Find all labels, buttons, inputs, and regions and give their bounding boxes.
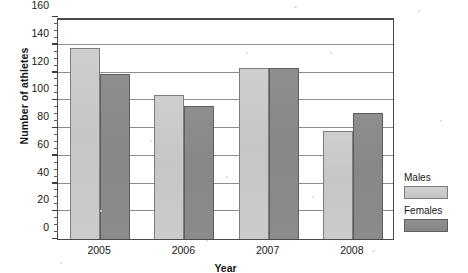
y-axis-tick	[52, 43, 58, 44]
y-axis-minor-tick	[54, 176, 58, 177]
scan-artifact	[372, 250, 375, 252]
y-axis-minor-tick	[54, 196, 58, 197]
y-axis-tick-label: 20	[37, 193, 49, 205]
y-axis-tick-label: 40	[37, 166, 49, 178]
bar-males-2006	[154, 95, 184, 239]
bar-males-2007	[239, 68, 269, 239]
scan-artifact	[206, 240, 208, 242]
x-axis-title: Year	[214, 262, 236, 273]
y-axis-minor-tick	[54, 78, 58, 79]
bar-males-2005	[70, 48, 100, 239]
y-axis-tick	[52, 99, 58, 100]
y-axis-tick	[52, 154, 58, 155]
y-axis-tick	[52, 238, 58, 239]
y-axis-tick-label: 60	[37, 138, 49, 150]
y-axis-minor-tick	[54, 141, 58, 142]
y-axis-tick	[52, 182, 58, 183]
y-axis-minor-tick	[54, 134, 58, 135]
x-axis-tick-label: 2008	[340, 244, 363, 256]
y-axis-minor-tick	[54, 85, 58, 86]
y-axis-minor-tick	[54, 51, 58, 52]
y-axis-tick	[52, 16, 58, 17]
bar-females-2007	[269, 68, 299, 239]
y-axis-minor-tick	[54, 23, 58, 24]
x-axis-tick-label: 2006	[172, 244, 195, 256]
bar-chart: Number of athletes 020406080100120140160…	[0, 0, 468, 273]
y-axis-minor-tick	[54, 92, 58, 93]
bar-females-2006	[184, 106, 214, 239]
y-axis-minor-tick	[54, 148, 58, 149]
light-gray-swatch	[404, 186, 448, 199]
y-axis-tick-label: 80	[37, 110, 49, 122]
x-axis-tick-label: 2005	[87, 244, 110, 256]
y-axis-tick	[52, 71, 58, 72]
y-axis-tick-label: 140	[31, 27, 49, 39]
y-axis-tick-label: 100	[31, 82, 49, 94]
x-axis-title-wrapper: Year	[57, 258, 394, 273]
plot-area: 020406080100120140160	[57, 18, 394, 240]
y-axis-minor-tick	[54, 58, 58, 59]
x-axis-tick-label: 2007	[256, 244, 279, 256]
gridline	[58, 72, 393, 73]
y-axis-tick	[52, 127, 58, 128]
y-axis-minor-tick	[54, 203, 58, 204]
bar-females-2005	[100, 74, 130, 239]
y-axis-minor-tick	[54, 30, 58, 31]
bar-females-2008	[353, 113, 383, 239]
y-axis-minor-tick	[54, 65, 58, 66]
y-axis-minor-tick	[54, 120, 58, 121]
y-axis-minor-tick	[54, 169, 58, 170]
y-axis-tick-label: 120	[31, 55, 49, 67]
y-axis-minor-tick	[54, 106, 58, 107]
legend-label: Males	[404, 172, 464, 184]
y-axis-minor-tick	[54, 217, 58, 218]
gridline	[58, 44, 393, 45]
dark-gray-swatch	[404, 219, 448, 232]
y-axis-minor-tick	[54, 231, 58, 232]
legend-entry-females: Females	[404, 205, 464, 232]
y-axis-title: Number of athletes	[18, 16, 30, 176]
y-axis-minor-tick	[54, 189, 58, 190]
y-axis-minor-tick	[54, 162, 58, 163]
y-axis-minor-tick	[54, 224, 58, 225]
y-axis-tick-label: 0	[43, 221, 49, 233]
scan-artifact	[440, 120, 442, 122]
bar-males-2008	[323, 131, 353, 239]
scan-artifact	[418, 10, 420, 12]
y-axis-minor-tick	[54, 113, 58, 114]
legend-label: Females	[404, 205, 464, 217]
y-axis-tick-label: 160	[31, 0, 49, 11]
y-axis-minor-tick	[54, 37, 58, 38]
chart-legend: MalesFemales	[404, 172, 464, 238]
y-axis-tick	[52, 210, 58, 211]
scan-artifact	[294, 6, 297, 8]
legend-entry-males: Males	[404, 172, 464, 199]
